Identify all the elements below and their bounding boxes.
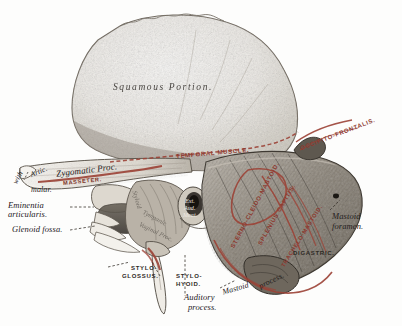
temporal-bone-engraving [0, 0, 402, 326]
mastoid-portion-shape [196, 137, 372, 294]
styloid-process-shape [146, 241, 170, 314]
anatomical-plate: Squamous Portion. Artic. with malar. Zyg… [0, 0, 402, 326]
